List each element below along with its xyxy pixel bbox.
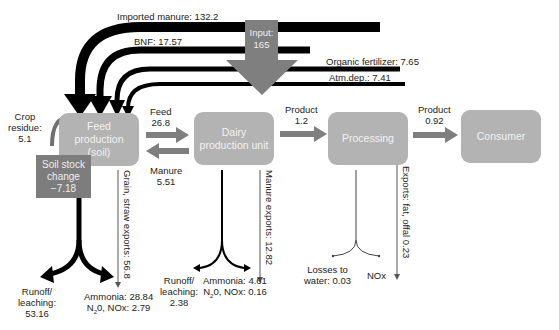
organic-fertilizer-label: Organic fertilizer: 7.65 (326, 56, 419, 67)
processing-nox-label: NOx (367, 270, 386, 281)
crop-residue-label: Crop residue: 5.1 (8, 111, 42, 144)
product1-flow-label: Product 1.2 (285, 104, 318, 126)
manure-flow-label: Manure 5.51 (150, 165, 182, 187)
dairy-ammonia-label: Ammonia: 4.61 N20, NOx: 0.16 (203, 275, 267, 302)
processing-node: Processing (328, 112, 408, 165)
product2-flow-label: Product 0.92 (418, 104, 451, 126)
imported-manure-label: Imported manure: 132.2 (117, 11, 218, 22)
fat-offal-exports-label: Exports: fat, offal 0.23 (401, 166, 412, 258)
feed-ammonia-label: Ammonia: 28.84 N20, NOx: 2.79 (84, 291, 153, 318)
grain-straw-exports-label: Grain, straw exports: 56.8 (122, 170, 133, 279)
bnf-label: BNF: 17.57 (134, 36, 182, 47)
dairy-runoff-label: Runoff/ leaching: 2.38 (160, 275, 198, 308)
processing-water-loss-label: Losses to water: 0.03 (304, 264, 351, 286)
feed-flow-label: Feed 26.8 (150, 106, 172, 128)
input-label: Input: 165 (245, 27, 278, 51)
soil-stock-change-node: Soil stock change −7.18 (36, 155, 91, 198)
feed-runoff-label: Runoff/ leaching: 53.16 (18, 286, 56, 319)
dairy-production-node: Dairy production unit (194, 112, 274, 165)
consumer-node: Consumer (461, 110, 541, 163)
manure-exports-label: Manure exports: 12.82 (264, 170, 275, 265)
atm-dep-label: Atm.dep.: 7.41 (329, 72, 391, 83)
